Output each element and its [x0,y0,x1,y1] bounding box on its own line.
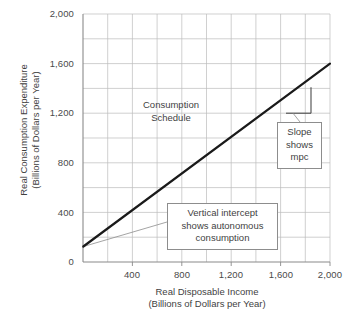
consumption-function-chart: 2,000 1,600 1,200 800 400 0 400 800 1,20… [0,0,356,319]
x-tick-1600: 1,600 [258,269,304,280]
x-tick-2000: 2,000 [307,269,353,280]
x-tick-800: 800 [159,269,205,280]
y-tick-2000: 2,000 [28,8,74,19]
intercept-callout-line3: consumption [172,232,273,245]
consumption-schedule-label-line2: Schedule [113,112,229,125]
slope-callout: Slope shows mpc [277,122,322,169]
y-axis-title: Real Consumption Expenditure (Billions o… [18,50,42,210]
intercept-callout-line2: shows autonomous [172,220,273,233]
y-tick-0: 0 [28,256,74,267]
consumption-schedule-label: Consumption Schedule [113,99,229,124]
y-axis-title-units: (Billions of Dollars per Year) [30,50,42,210]
x-axis-title-units: (Billions of Dollars per Year) [83,298,331,310]
slope-callout-line1: Slope [281,126,318,139]
intercept-callout: Vertical intercept shows autonomous cons… [167,203,278,250]
x-tick-400: 400 [109,269,155,280]
y-axis-title-main: Real Consumption Expenditure [18,50,30,210]
slope-callout-line2: shows [281,139,318,152]
x-tick-marks [132,262,330,266]
x-axis-title-main: Real Disposable Income [83,286,331,298]
intercept-callout-line1: Vertical intercept [172,207,273,220]
x-tick-1200: 1,200 [208,269,254,280]
slope-callout-line3: mpc [281,151,318,164]
consumption-schedule-label-line1: Consumption [113,99,229,112]
x-axis-title: Real Disposable Income (Billions of Doll… [83,286,331,310]
